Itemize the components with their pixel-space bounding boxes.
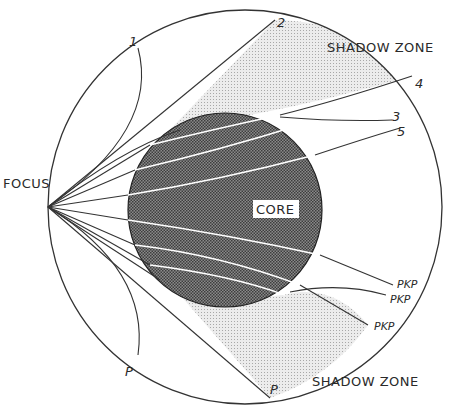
seismic-diagram: 1 2 3 4 5 SHADOW ZONE SHADOW ZONE FOCUS … — [0, 0, 457, 411]
ray-label-1: 1 — [129, 34, 137, 49]
core-label: CORE — [256, 202, 295, 217]
pkp-label-1: PKP — [397, 278, 418, 291]
ray-label-3: 3 — [392, 109, 400, 124]
shadow-zone-bottom-label: SHADOW ZONE — [312, 374, 419, 389]
ray-label-5: 5 — [397, 124, 405, 139]
p-label-left: P — [125, 364, 133, 379]
ray-label-2: 2 — [277, 15, 285, 30]
ray-label-4: 4 — [415, 76, 423, 91]
pkp-label-3: PKP — [374, 320, 395, 333]
pkp-label-2: PKP — [390, 293, 411, 306]
shadow-zone-top-label: SHADOW ZONE — [327, 40, 434, 55]
diagram-canvas: 1 2 3 4 5 SHADOW ZONE SHADOW ZONE FOCUS … — [0, 0, 457, 411]
focus-label: FOCUS — [3, 176, 50, 191]
p-label-bottom: P — [270, 382, 278, 397]
